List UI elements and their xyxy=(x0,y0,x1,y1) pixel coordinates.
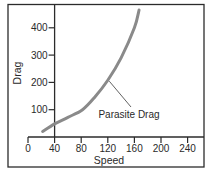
y-tick-label: 300 xyxy=(31,50,48,61)
y-tick-label: 100 xyxy=(31,104,48,115)
x-tick-label: 0 xyxy=(25,143,31,154)
x-tick-label: 200 xyxy=(153,143,170,154)
y-tick-label: 400 xyxy=(31,22,48,33)
y-tick-label: 200 xyxy=(31,77,48,88)
x-tick-label: 160 xyxy=(126,143,143,154)
x-tick-label: 240 xyxy=(179,143,196,154)
x-tick-label: 40 xyxy=(49,143,61,154)
x-tick-label: 120 xyxy=(99,143,116,154)
parasite-drag-chart: 100200300400 04080120160200240 Parasite … xyxy=(0,0,213,178)
x-tick-label: 80 xyxy=(76,143,88,154)
y-axis-title: Drag xyxy=(11,61,23,84)
annotation-label: Parasite Drag xyxy=(98,109,159,120)
x-axis-title: Speed xyxy=(94,154,125,166)
